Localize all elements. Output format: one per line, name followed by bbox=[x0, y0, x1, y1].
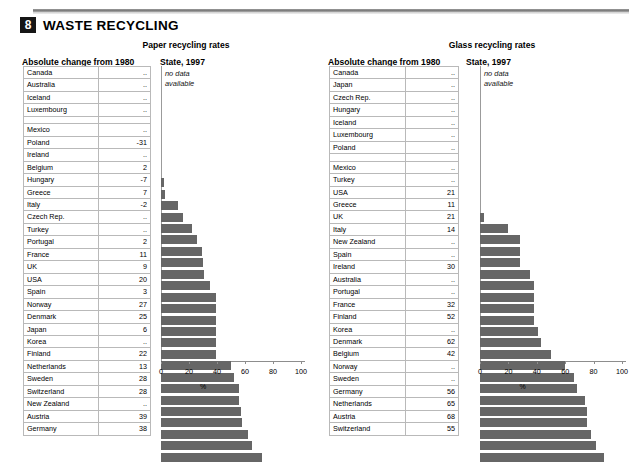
absolute-change-cell: 20 bbox=[98, 273, 150, 285]
table-row[interactable]: Luxembourg.. bbox=[24, 104, 151, 116]
table-row[interactable]: France32 bbox=[330, 298, 459, 310]
table-row[interactable]: Norway.. bbox=[330, 360, 459, 372]
absolute-change-cell: 27 bbox=[98, 298, 150, 310]
table-row[interactable]: Spain.. bbox=[330, 248, 459, 260]
table-row[interactable]: Korea.. bbox=[330, 323, 459, 335]
table-row[interactable]: Ireland30 bbox=[330, 261, 459, 273]
table-row[interactable]: Japan6 bbox=[24, 323, 151, 335]
chapter-number-badge: 8 bbox=[20, 17, 36, 33]
table-row[interactable]: Czech Rep... bbox=[24, 211, 151, 223]
table-row[interactable]: Italy-2 bbox=[24, 199, 151, 211]
table-row[interactable]: Australia.. bbox=[330, 273, 459, 285]
table-row[interactable]: Iceland.. bbox=[330, 116, 459, 128]
table-row[interactable]: Sweden28 bbox=[24, 373, 151, 385]
glass-no-data-line1: no data bbox=[484, 69, 513, 79]
table-row[interactable]: USA21 bbox=[330, 186, 459, 198]
chart-bar bbox=[161, 178, 164, 187]
chart-bar bbox=[161, 350, 216, 359]
absolute-change-cell: 65 bbox=[406, 398, 459, 410]
axis-tick-mark bbox=[508, 362, 509, 365]
table-row[interactable]: Hungary.. bbox=[330, 104, 459, 116]
table-row[interactable]: Hungary-7 bbox=[24, 174, 151, 186]
table-row[interactable]: Denmark25 bbox=[24, 311, 151, 323]
country-name-cell: Poland bbox=[24, 136, 99, 148]
table-row[interactable]: Switzerland55 bbox=[330, 423, 459, 435]
table-row[interactable]: Finland52 bbox=[330, 311, 459, 323]
table-row[interactable]: Mexico.. bbox=[24, 124, 151, 136]
table-row[interactable]: New Zealand.. bbox=[24, 398, 151, 410]
table-row[interactable]: France11 bbox=[24, 248, 151, 260]
table-row[interactable]: Czech Rep... bbox=[330, 91, 459, 103]
table-row[interactable]: Switzerland28 bbox=[24, 385, 151, 397]
glass-axis-unit: % bbox=[519, 383, 525, 390]
country-name-cell: Luxembourg bbox=[24, 104, 99, 116]
country-name-cell: Greece bbox=[330, 199, 406, 211]
country-name-cell: Switzerland bbox=[24, 385, 99, 397]
country-name-cell: Switzerland bbox=[330, 423, 406, 435]
country-name-cell: France bbox=[330, 298, 406, 310]
table-row[interactable]: Poland-31 bbox=[24, 136, 151, 148]
chart-bar bbox=[161, 293, 216, 302]
country-name-cell: Turkey bbox=[330, 174, 406, 186]
axis-tick-label: 20 bbox=[185, 367, 193, 376]
chart-bar bbox=[161, 453, 262, 462]
table-row[interactable]: Germany56 bbox=[330, 385, 459, 397]
table-row[interactable]: Netherlands13 bbox=[24, 360, 151, 372]
chart-bar bbox=[161, 270, 204, 279]
table-row[interactable]: Iceland.. bbox=[24, 91, 151, 103]
absolute-change-cell: 3 bbox=[98, 286, 150, 298]
table-row[interactable]: Poland.. bbox=[330, 141, 459, 153]
chart-bar bbox=[161, 396, 239, 405]
absolute-change-cell: .. bbox=[406, 323, 459, 335]
table-row[interactable]: Korea.. bbox=[24, 336, 151, 348]
table-row[interactable]: Spain3 bbox=[24, 286, 151, 298]
table-row[interactable]: Denmark62 bbox=[330, 336, 459, 348]
chart-bar bbox=[480, 224, 508, 233]
table-row[interactable]: Canada.. bbox=[330, 67, 459, 79]
axis-tick-label: 60 bbox=[561, 367, 569, 376]
table-row[interactable]: Italy14 bbox=[330, 223, 459, 235]
table-row[interactable]: UK21 bbox=[330, 211, 459, 223]
table-row[interactable]: Austria39 bbox=[24, 410, 151, 422]
table-row[interactable]: USA20 bbox=[24, 273, 151, 285]
table-row[interactable]: Greece11 bbox=[330, 199, 459, 211]
table-row[interactable]: Sweden.. bbox=[330, 373, 459, 385]
absolute-change-cell: 39 bbox=[98, 410, 150, 422]
table-row[interactable]: Luxembourg.. bbox=[330, 129, 459, 141]
table-row[interactable]: Belgium2 bbox=[24, 161, 151, 173]
absolute-change-cell: 28 bbox=[98, 373, 150, 385]
table-row[interactable]: Turkey.. bbox=[330, 174, 459, 186]
page-header: 8 WASTE RECYCLING bbox=[20, 17, 179, 33]
table-row[interactable]: Australia.. bbox=[24, 79, 151, 91]
paper-table-wrap: Canada..Australia..Iceland..Luxembourg..… bbox=[23, 66, 151, 436]
table-row[interactable]: Ireland.. bbox=[24, 149, 151, 161]
country-name-cell: Turkey bbox=[24, 223, 99, 235]
absolute-change-cell: .. bbox=[406, 129, 459, 141]
country-name-cell: UK bbox=[24, 261, 99, 273]
table-row[interactable]: Belgium42 bbox=[330, 348, 459, 360]
country-name-cell: Mexico bbox=[330, 161, 406, 173]
chart-bar bbox=[161, 338, 216, 347]
table-row[interactable]: Greece7 bbox=[24, 186, 151, 198]
table-row[interactable]: Germany38 bbox=[24, 423, 151, 435]
country-name-cell: Korea bbox=[330, 323, 406, 335]
chart-bar bbox=[480, 384, 577, 393]
country-name-cell: Netherlands bbox=[24, 360, 99, 372]
table-row[interactable]: Norway27 bbox=[24, 298, 151, 310]
table-row[interactable]: Turkey.. bbox=[24, 223, 151, 235]
table-row[interactable]: Canada.. bbox=[24, 67, 151, 79]
chart-bar bbox=[480, 453, 604, 462]
table-row[interactable]: Austria68 bbox=[330, 410, 459, 422]
table-row[interactable]: Japan.. bbox=[330, 79, 459, 91]
axis-tick-mark bbox=[245, 362, 246, 365]
chart-bar bbox=[161, 235, 197, 244]
table-row[interactable]: UK9 bbox=[24, 261, 151, 273]
table-row[interactable]: New Zealand.. bbox=[330, 236, 459, 248]
table-row[interactable]: Portugal2 bbox=[24, 236, 151, 248]
table-row[interactable]: Portugal.. bbox=[330, 286, 459, 298]
table-row[interactable]: Finland22 bbox=[24, 348, 151, 360]
absolute-change-cell: .. bbox=[406, 116, 459, 128]
table-row[interactable]: Netherlands65 bbox=[330, 398, 459, 410]
table-row[interactable]: Mexico.. bbox=[330, 161, 459, 173]
